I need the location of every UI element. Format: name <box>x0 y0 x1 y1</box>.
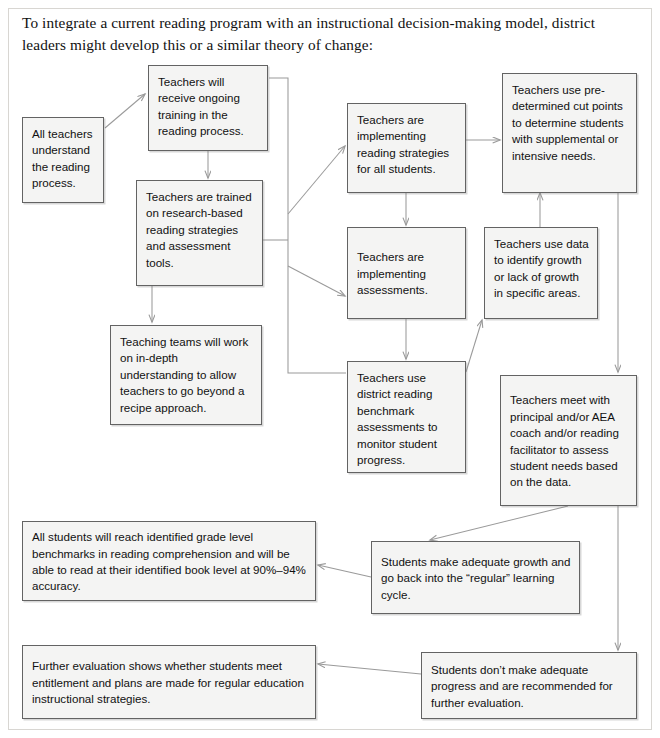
node-all-teachers-understand[interactable]: All teachers understand the reading proc… <box>22 117 104 203</box>
node-label: Teachers use district reading benchmark … <box>357 370 457 469</box>
node-label: Teachers are implementing assessments. <box>357 249 457 298</box>
node-label: Teachers use pre-determined cut points t… <box>512 82 628 164</box>
edge-trunk-n5 <box>288 146 345 214</box>
node-label: Teaching teams will work on in-depth und… <box>120 334 253 416</box>
node-ongoing-training[interactable]: Teachers will receive ongoing training i… <box>148 65 268 151</box>
node-teaching-teams[interactable]: Teaching teams will work on in-depth und… <box>110 325 262 425</box>
node-teachers-trained[interactable]: Teachers are trained on research-based r… <box>136 180 263 286</box>
node-label: All teachers understand the reading proc… <box>32 126 95 192</box>
node-use-data-growth[interactable]: Teachers use data to identify growth or … <box>484 227 598 319</box>
diagram-page: To integrate a current reading program w… <box>0 0 660 738</box>
node-label: Teachers are trained on research-based r… <box>146 189 254 271</box>
node-implementing-assessments[interactable]: Teachers are implementing assessments. <box>347 227 466 319</box>
node-implementing-reading-strategies[interactable]: Teachers are implementing reading strate… <box>347 103 466 193</box>
edge-n9-n8 <box>466 320 482 372</box>
node-teachers-meet-principal[interactable]: Teachers meet with principal and/or AEA … <box>500 375 637 506</box>
edge-trunk-n9 <box>288 240 346 373</box>
node-label: Teachers meet with principal and/or AEA … <box>510 392 628 491</box>
node-further-evaluation[interactable]: Further evaluation shows whether student… <box>22 645 316 719</box>
node-not-adequate-progress[interactable]: Students don’t make adequate progress an… <box>421 652 637 719</box>
node-label: Students make adequate growth and go bac… <box>381 554 571 603</box>
edge-n14-n13 <box>318 664 421 674</box>
edge-n12-n11 <box>318 565 371 577</box>
node-all-students-benchmarks[interactable]: All students will reach identified grade… <box>22 521 316 601</box>
node-label: Further evaluation shows whether student… <box>32 658 307 707</box>
node-label: Teachers use data to identify growth or … <box>494 236 589 302</box>
edge-n1-n2 <box>105 94 145 128</box>
node-cut-points[interactable]: Teachers use pre-determined cut points t… <box>502 73 637 193</box>
edge-trunk-n6 <box>288 266 345 296</box>
node-benchmark-assessments[interactable]: Teachers use district reading benchmark … <box>347 361 466 473</box>
node-label: Teachers will receive ongoing training i… <box>158 74 259 140</box>
node-label: Students don’t make adequate progress an… <box>431 662 628 711</box>
edge-n10-n12 <box>430 506 568 540</box>
node-label: Teachers are implementing reading strate… <box>357 112 457 178</box>
node-label: All students will reach identified grade… <box>32 529 307 595</box>
node-adequate-growth[interactable]: Students make adequate growth and go bac… <box>371 541 580 614</box>
edge-n2-trunk <box>269 78 288 240</box>
